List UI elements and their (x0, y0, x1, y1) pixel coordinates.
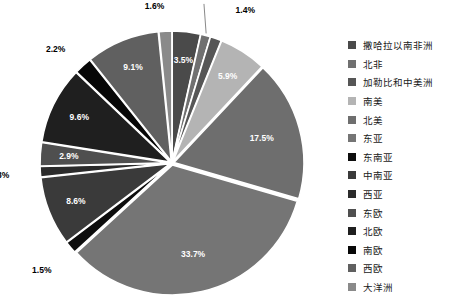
pie-slice-value-label: 1.2% (204, 0, 224, 2)
pie-slice-value-label: 8.6% (66, 196, 86, 206)
legend-item-label: 北美 (363, 113, 383, 127)
legend-item-label: 中南亚 (363, 168, 393, 182)
legend-item-label: 南美 (363, 94, 383, 108)
pie-chart-svg: 3.5%1.2%1.4%5.9%17.5%33.7%1.5%8.6%1.3%2.… (0, 0, 330, 307)
legend-item[interactable]: 西欧 (348, 259, 448, 278)
pie-slice-value-label: 1.4% (236, 5, 256, 15)
label-leader-line (204, 4, 206, 34)
legend-item-label: 西亚 (363, 187, 383, 201)
legend-color-swatch (348, 60, 356, 68)
legend-color-swatch (348, 209, 356, 217)
legend-color-swatch (348, 171, 356, 179)
legend-item-label: 东南亚 (363, 150, 393, 164)
pie-slice-value-label: 1.3% (0, 170, 10, 180)
legend-color-swatch (348, 264, 356, 272)
pie-slice-value-label: 2.2% (46, 44, 66, 54)
legend-color-swatch (348, 134, 356, 142)
legend-item[interactable]: 北非 (348, 55, 448, 74)
pie-slice-value-label: 5.9% (218, 71, 238, 81)
pie-slice-value-label: 2.9% (59, 151, 79, 161)
pie-slice-value-label: 9.6% (70, 112, 90, 122)
legend-color-swatch (348, 246, 356, 254)
legend-item[interactable]: 东亚 (348, 129, 448, 148)
pie-chart-area: 3.5%1.2%1.4%5.9%17.5%33.7%1.5%8.6%1.3%2.… (0, 0, 330, 307)
legend-item-label: 东亚 (363, 131, 383, 145)
pie-slice-value-label: 17.5% (250, 133, 275, 143)
legend-color-swatch (348, 153, 356, 161)
legend-item-label: 北欧 (363, 224, 383, 238)
legend-item[interactable]: 加勒比和中美洲 (348, 73, 448, 92)
legend-item-label: 东欧 (363, 206, 383, 220)
pie-slice-value-label: 9.1% (123, 62, 143, 72)
legend-item-label: 南欧 (363, 243, 383, 257)
pie-slice-value-label: 1.5% (32, 265, 52, 275)
legend-item[interactable]: 中南亚 (348, 166, 448, 185)
legend-item-label: 撒哈拉以南非洲 (363, 38, 433, 52)
legend-item[interactable]: 西亚 (348, 185, 448, 204)
legend-item[interactable]: 北欧 (348, 222, 448, 241)
legend-item[interactable]: 北美 (348, 110, 448, 129)
legend-color-swatch (348, 97, 356, 105)
legend-item[interactable]: 东南亚 (348, 148, 448, 167)
legend-item[interactable]: 大洋洲 (348, 278, 448, 297)
pie-slice-value-label: 33.7% (181, 249, 206, 259)
legend-color-swatch (348, 190, 356, 198)
legend-item-label: 大洋洲 (363, 280, 393, 294)
legend-color-swatch (348, 227, 356, 235)
legend-item-label: 加勒比和中美洲 (363, 75, 433, 89)
legend-color-swatch (348, 283, 356, 291)
legend-color-swatch (348, 41, 356, 49)
pie-slice-value-label: 3.5% (174, 55, 194, 65)
chart-legend: 撒哈拉以南非洲北非加勒比和中美洲南美北美东亚东南亚中南亚西亚东欧北欧南欧西欧大洋… (348, 36, 448, 296)
legend-item[interactable]: 撒哈拉以南非洲 (348, 36, 448, 55)
pie-leader-lines-group (204, 4, 206, 34)
legend-item-label: 西欧 (363, 261, 383, 275)
pie-slice-value-label: 1.6% (145, 1, 165, 11)
legend-item[interactable]: 南欧 (348, 241, 448, 260)
pie-slices-group (40, 31, 304, 295)
legend-item-label: 北非 (363, 57, 383, 71)
legend-item[interactable]: 南美 (348, 92, 448, 111)
legend-color-swatch (348, 116, 356, 124)
legend-item[interactable]: 东欧 (348, 203, 448, 222)
legend-color-swatch (348, 78, 356, 86)
